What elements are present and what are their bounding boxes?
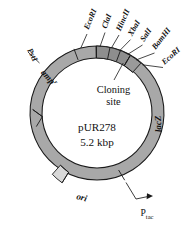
label-ecori-left: EcoRI [82, 7, 99, 32]
plasmid-map-figure: EcoRI ClaI HincII XbaI SalI BamHI EcoRI … [0, 0, 194, 230]
label-ecori-right: EcoRI [159, 45, 182, 67]
plasmid-size: 5.2 kbp [80, 136, 114, 148]
leader-ecori-left [81, 34, 87, 48]
leader-sali [128, 45, 143, 54]
leader-cloning-site [114, 63, 123, 80]
leader-hincii [112, 35, 120, 48]
label-lacz: lacZ [153, 115, 164, 132]
label-clai: ClaI [100, 12, 114, 30]
label-sali: SalI [138, 26, 154, 43]
leader-xbai [120, 40, 131, 51]
label-ptac-subscript: tac [146, 213, 154, 220]
label-ori: ori [76, 191, 89, 203]
polylinker-band [96, 46, 130, 66]
plasmid-ring [30, 46, 164, 180]
label-cloning-site-line2: site [106, 96, 121, 107]
label-bamhi: BamHI [149, 25, 173, 52]
ring-backbone [30, 46, 164, 180]
label-cloning-site-line1: Cloning [97, 84, 131, 95]
label-ptac: Ptac [140, 207, 153, 220]
ptac-arrow-head [147, 193, 153, 199]
leader-bamhi [136, 53, 155, 60]
ptac-arrow-line [126, 183, 148, 200]
leader-clai [100, 33, 105, 47]
ptac-arrow-group [126, 183, 153, 200]
plasmid-name: pUR278 [78, 121, 116, 133]
plasmid-map-svg: EcoRI ClaI HincII XbaI SalI BamHI EcoRI … [0, 0, 194, 230]
